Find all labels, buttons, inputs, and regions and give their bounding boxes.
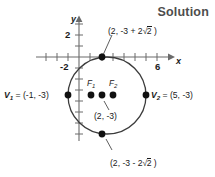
label-vertex-left: V1 = (-1, -3) xyxy=(4,91,49,101)
label-co-vertex-top-suffix: ) xyxy=(152,26,157,36)
label-vertex-right: V2 = (5, -3) xyxy=(151,91,193,101)
point-center xyxy=(99,92,106,99)
x-axis-label: x xyxy=(176,57,181,66)
label-vertex-right-value: = (5, -3) xyxy=(160,90,193,100)
point-co-vertex-bottom xyxy=(99,131,106,138)
label-co-vertex-top: (2, -3 + 2√2 ) xyxy=(108,26,157,36)
label-co-vertex-bottom: (2, -3 - 2√2 ) xyxy=(110,158,157,168)
label-focus-1-subscript: 1 xyxy=(92,83,95,89)
ellipse-curve xyxy=(68,57,146,134)
label-focus-2: F2 xyxy=(109,80,117,90)
label-co-vertex-bottom-suffix: ) xyxy=(151,158,156,168)
point-focus-2 xyxy=(110,92,117,99)
point-vertex-left xyxy=(65,92,72,99)
point-focus-1 xyxy=(88,92,95,99)
label-co-vertex-top-prefix: (2, -3 + 2 xyxy=(108,26,143,36)
label-co-vertex-bottom-prefix: (2, -3 - 2 xyxy=(110,158,142,168)
label-focus-2-subscript: 2 xyxy=(114,83,117,89)
label-vertex-left-value: = (-1, -3) xyxy=(13,90,49,100)
y-tick-label-2: 2 xyxy=(65,30,70,40)
label-focus-1: F1 xyxy=(87,80,95,90)
x-tick-label-6: 6 xyxy=(155,62,160,72)
y-axis-label: y xyxy=(71,15,76,24)
plotted-points xyxy=(65,54,150,138)
figure-container: Solution y x -2 6 2 (2, -3 + 2√2 ) (2, -… xyxy=(0,0,215,177)
point-co-vertex-top xyxy=(99,54,106,61)
point-vertex-right xyxy=(143,92,150,99)
page-title: Solution xyxy=(157,6,209,19)
x-tick-label-neg2: -2 xyxy=(60,62,68,72)
label-center-point: (2, -3) xyxy=(94,112,117,121)
